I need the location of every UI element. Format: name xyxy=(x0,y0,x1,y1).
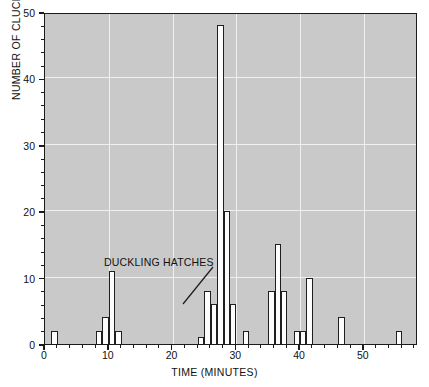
y-tick-label: 40 xyxy=(0,74,35,85)
x-minor-tick-mark xyxy=(82,345,83,348)
x-tick-label: 40 xyxy=(293,349,305,361)
bar xyxy=(338,317,344,344)
x-tick-label: 50 xyxy=(357,349,369,361)
gridline-vertical xyxy=(236,14,237,344)
gridline-horizontal xyxy=(45,77,416,78)
bar xyxy=(281,291,287,344)
x-minor-tick-mark xyxy=(388,345,389,348)
x-minor-tick-mark xyxy=(146,345,147,348)
x-minor-tick-mark xyxy=(209,345,210,348)
bar xyxy=(396,331,402,344)
x-minor-tick-mark xyxy=(69,345,70,348)
gridline-horizontal xyxy=(45,210,416,211)
y-tick-label: 0 xyxy=(0,340,35,351)
x-minor-tick-mark xyxy=(260,345,261,348)
plot-area xyxy=(44,13,417,345)
x-minor-tick-mark xyxy=(222,345,223,348)
y-tick-label: 10 xyxy=(0,274,35,285)
x-tick-label: 30 xyxy=(229,349,241,361)
x-minor-tick-mark xyxy=(184,345,185,348)
y-axis-label-container: NUMBER OF CLUCKS xyxy=(12,0,32,345)
bar xyxy=(115,331,121,344)
bar xyxy=(243,331,249,344)
gridline-vertical xyxy=(173,14,174,344)
bar xyxy=(230,304,236,344)
x-minor-tick-mark xyxy=(197,345,198,348)
annotation-duckling-hatches: DUCKLING HATCHES xyxy=(104,256,214,268)
gridline-vertical xyxy=(300,14,301,344)
bar xyxy=(51,331,57,344)
x-minor-tick-mark xyxy=(248,345,249,348)
x-minor-tick-mark xyxy=(95,345,96,348)
x-minor-tick-mark xyxy=(120,345,121,348)
bar xyxy=(306,278,312,344)
x-tick-label: 10 xyxy=(102,349,114,361)
x-minor-tick-mark xyxy=(311,345,312,348)
chart-figure: NUMBER OF CLUCKS 01020304050 01020304050… xyxy=(0,0,429,387)
x-minor-tick-mark xyxy=(375,345,376,348)
x-minor-tick-mark xyxy=(133,345,134,348)
x-minor-tick-mark xyxy=(324,345,325,348)
x-axis-label: TIME (MINUTES) xyxy=(0,366,429,378)
x-minor-tick-mark xyxy=(337,345,338,348)
x-tick-label: 0 xyxy=(41,349,47,361)
gridline-horizontal xyxy=(45,277,416,278)
gridline-horizontal xyxy=(45,144,416,145)
y-tick-label: 50 xyxy=(0,8,35,19)
y-tick-label: 20 xyxy=(0,207,35,218)
x-minor-tick-mark xyxy=(273,345,274,348)
x-minor-tick-mark xyxy=(401,345,402,348)
x-tick-label: 20 xyxy=(166,349,178,361)
y-tick-label: 30 xyxy=(0,141,35,152)
x-minor-tick-mark xyxy=(158,345,159,348)
x-minor-tick-mark xyxy=(286,345,287,348)
x-minor-tick-mark xyxy=(350,345,351,348)
x-minor-tick-mark xyxy=(56,345,57,348)
gridline-vertical xyxy=(364,14,365,344)
x-minor-tick-mark xyxy=(413,345,414,348)
